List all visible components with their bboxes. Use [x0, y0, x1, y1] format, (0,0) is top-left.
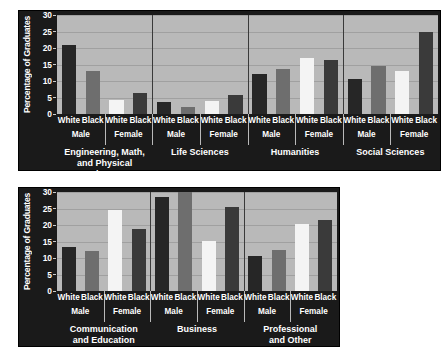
- field-of-study-label: Engineering, Math, and Physical Sciences: [57, 147, 152, 180]
- race-label-white: White: [57, 292, 80, 304]
- y-tick-label: 20: [43, 220, 52, 230]
- y-tick-10: 10: [43, 76, 56, 86]
- race-label-white: White: [104, 292, 127, 304]
- race-label-row: WhiteBlack: [57, 292, 104, 304]
- race-label-black: Black: [414, 115, 438, 127]
- bar-white-female: [202, 241, 216, 291]
- y-tick-label: 10: [43, 76, 52, 86]
- y-tick-label: 0: [47, 286, 52, 296]
- label-subgroup-female: WhiteBlackFemale: [104, 291, 151, 322]
- label-subgroup-female: WhiteBlackFemale: [295, 114, 343, 145]
- race-label-black: Black: [220, 292, 243, 304]
- race-label-row: WhiteBlack: [343, 115, 391, 127]
- field-of-study-label: Communication and Education: [57, 324, 150, 346]
- x-axis-labels-top: WhiteBlackMaleWhiteBlackFemaleEngineerin…: [57, 114, 438, 169]
- race-label-row: WhiteBlack: [390, 115, 438, 127]
- y-tick-20: 20: [43, 220, 56, 230]
- race-label-black: Black: [174, 292, 197, 304]
- race-label-row: WhiteBlack: [197, 292, 244, 304]
- race-label-row: WhiteBlack: [57, 115, 105, 127]
- y-tick-label: 15: [43, 60, 52, 70]
- y-tick-mark: [53, 31, 56, 32]
- race-label-black: Black: [267, 292, 290, 304]
- y-tick-25: 25: [43, 27, 56, 37]
- label-subgroup-male: WhiteBlackMale: [248, 114, 296, 145]
- label-subgroup-female: WhiteBlackFemale: [105, 114, 153, 145]
- y-tick-30: 30: [43, 187, 56, 197]
- field-of-study-label: Business: [150, 324, 243, 335]
- gridline: [57, 209, 337, 210]
- sex-label-male: Male: [248, 129, 296, 141]
- y-tick-10: 10: [43, 253, 56, 263]
- bar-white-female: [395, 71, 409, 114]
- label-subgroup-male: WhiteBlackMale: [152, 114, 200, 145]
- field-of-study-label: Humanities: [248, 147, 343, 158]
- sex-label-male: Male: [343, 129, 391, 141]
- sex-label-female: Female: [105, 129, 153, 141]
- field-of-study-label: Social Sciences: [343, 147, 438, 158]
- y-tick-mark: [53, 258, 56, 259]
- y-tick-mark: [53, 114, 56, 115]
- bar-black-male: [86, 71, 100, 114]
- bar-black-male: [85, 251, 99, 291]
- label-group: WhiteBlackMaleWhiteBlackFemaleSocial Sci…: [343, 114, 438, 169]
- race-label-white: White: [248, 115, 272, 127]
- y-tick-20: 20: [43, 43, 56, 53]
- race-label-row: WhiteBlack: [150, 292, 197, 304]
- bar-white-male: [157, 102, 171, 114]
- label-subgroup-female: WhiteBlackFemale: [200, 114, 248, 145]
- field-of-study-label: Professional and Other: [244, 324, 337, 346]
- y-tick-label: 10: [43, 253, 52, 263]
- race-label-white: White: [105, 115, 129, 127]
- race-label-black: Black: [176, 115, 200, 127]
- bar-white-male: [348, 79, 362, 114]
- y-tick-mark: [53, 64, 56, 65]
- y-tick-15: 15: [43, 237, 56, 247]
- sex-label-female: Female: [200, 129, 248, 141]
- y-tick-label: 25: [43, 27, 52, 37]
- label-group: WhiteBlackMaleWhiteBlackFemaleEngineerin…: [57, 114, 152, 169]
- label-subgroup-male: WhiteBlackMale: [57, 114, 105, 145]
- y-tick-mark: [53, 48, 56, 49]
- race-label-row: WhiteBlack: [290, 292, 337, 304]
- bar-black-male: [276, 69, 290, 114]
- bar-black-female: [324, 60, 338, 114]
- y-tick-0: 0: [47, 286, 56, 296]
- race-label-white: White: [152, 115, 176, 127]
- field-of-study-label: Life Sciences: [152, 147, 247, 158]
- group-divider: [244, 192, 245, 291]
- race-label-white: White: [150, 292, 173, 304]
- y-tick-mark: [53, 15, 56, 16]
- label-subgroup-female: WhiteBlackFemale: [390, 114, 438, 145]
- y-tick-mark: [53, 225, 56, 226]
- group-divider: [343, 15, 344, 114]
- label-subgroup-female: WhiteBlackFemale: [197, 291, 244, 322]
- race-label-black: Black: [367, 115, 391, 127]
- y-tick-5: 5: [47, 93, 56, 103]
- y-axis-ticks-top: 051015202530: [34, 11, 56, 117]
- sex-label-male: Male: [244, 306, 291, 318]
- y-tick-mark: [53, 208, 56, 209]
- y-tick-label: 25: [43, 204, 52, 214]
- race-label-white: White: [390, 115, 414, 127]
- race-label-black: Black: [319, 115, 343, 127]
- y-tick-label: 30: [43, 10, 52, 20]
- sex-label-male: Male: [57, 129, 105, 141]
- plot-area-bottom: [57, 192, 337, 291]
- bar-black-female: [318, 220, 332, 291]
- race-label-row: WhiteBlack: [152, 115, 200, 127]
- y-tick-mark: [53, 81, 56, 82]
- gridline: [57, 192, 337, 193]
- bar-black-female: [133, 93, 147, 114]
- race-label-white: White: [343, 115, 367, 127]
- y-axis-title-top: Percentage of Graduates: [20, 11, 34, 117]
- race-label-row: WhiteBlack: [248, 115, 296, 127]
- race-label-white: White: [57, 115, 81, 127]
- bar-black-male: [181, 107, 195, 114]
- sex-label-female: Female: [295, 129, 343, 141]
- sex-label-female: Female: [390, 129, 438, 141]
- y-tick-label: 15: [43, 237, 52, 247]
- label-group: WhiteBlackMaleWhiteBlackFemaleHumanities: [248, 114, 343, 169]
- label-group: WhiteBlackMaleWhiteBlackFemaleLife Scien…: [152, 114, 247, 169]
- bar-white-female: [108, 210, 122, 292]
